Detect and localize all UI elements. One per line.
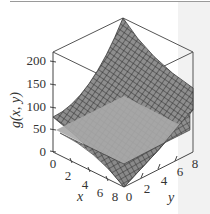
svg-text:0: 0 bbox=[40, 144, 47, 159]
svg-text:6: 6 bbox=[177, 164, 184, 179]
svg-text:6: 6 bbox=[97, 185, 104, 200]
svg-text:2: 2 bbox=[65, 168, 72, 183]
z-axis-tick-labels: 200 150 100 50 0 bbox=[27, 53, 47, 159]
svg-text:100: 100 bbox=[27, 99, 47, 114]
z-axis-label: g(x, y) bbox=[8, 92, 24, 128]
svg-text:50: 50 bbox=[33, 121, 46, 136]
svg-text:4: 4 bbox=[161, 173, 168, 188]
chart-figure: 200 150 100 50 0 g(x, y) 0 2 4 6 8 x 0 bbox=[0, 0, 210, 214]
svg-text:2: 2 bbox=[144, 181, 151, 196]
svg-text:200: 200 bbox=[27, 53, 47, 68]
surface-plot: 200 150 100 50 0 g(x, y) 0 2 4 6 8 x 0 bbox=[0, 0, 210, 214]
svg-text:8: 8 bbox=[112, 189, 119, 204]
y-axis-label: y bbox=[166, 190, 175, 205]
svg-text:0: 0 bbox=[126, 189, 133, 204]
svg-text:150: 150 bbox=[27, 76, 47, 91]
svg-text:0: 0 bbox=[50, 156, 57, 171]
svg-text:8: 8 bbox=[192, 156, 199, 171]
x-axis-label: x bbox=[76, 189, 84, 204]
